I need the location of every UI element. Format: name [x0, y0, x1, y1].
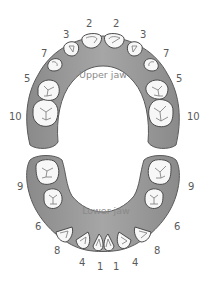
upper-right-molar2 [149, 100, 173, 127]
upper-jaw-label: Upper jaw [79, 69, 127, 80]
upper-left-molar2-number: 10 [9, 111, 22, 122]
lower-right-molar1 [145, 189, 163, 209]
upper-left-canine [48, 59, 62, 71]
upper-left-molar2 [33, 100, 58, 127]
dental-arch-diagram: Upper jaw 10 5 7 3 2 2 3 7 5 10 [0, 0, 207, 282]
upper-left-lateral [64, 42, 79, 56]
lower-right-molar2 [148, 160, 171, 185]
lower-right-lateral-number: 4 [132, 257, 138, 268]
upper-right-molar1-number: 5 [176, 73, 182, 84]
upper-left-canine-number: 7 [41, 48, 47, 59]
lower-jaw-label: Lower jaw [82, 205, 130, 216]
upper-right-lateral-number: 3 [140, 29, 146, 40]
upper-right-canine [144, 59, 158, 71]
upper-jaw: Upper jaw 10 5 7 3 2 2 3 7 5 10 [9, 18, 200, 148]
lower-left-molar1-number: 6 [35, 221, 41, 232]
lower-right-molar1-number: 6 [174, 221, 180, 232]
upper-right-canine-number: 7 [163, 48, 169, 59]
lower-left-molar1 [44, 189, 62, 209]
lower-left-molar2 [36, 160, 59, 185]
upper-left-molar1-number: 5 [24, 73, 30, 84]
lower-left-canine-number: 8 [54, 245, 60, 256]
upper-right-molar2-number: 10 [187, 111, 200, 122]
upper-left-molar1 [38, 80, 59, 100]
upper-right-central-number: 2 [113, 18, 119, 29]
lower-right-central-number: 1 [113, 261, 119, 272]
lower-left-molar2-number: 9 [17, 181, 23, 192]
lower-right-molar2-number: 9 [188, 181, 194, 192]
lower-right-canine-number: 8 [154, 245, 160, 256]
lower-left-lateral-number: 4 [79, 257, 85, 268]
upper-right-lateral [127, 42, 142, 56]
lower-left-central-number: 1 [97, 261, 103, 272]
lower-jaw: Lower jaw 9 6 8 4 1 1 4 8 6 9 [17, 156, 194, 273]
upper-left-lateral-number: 3 [63, 29, 69, 40]
upper-left-central-number: 2 [86, 18, 92, 29]
